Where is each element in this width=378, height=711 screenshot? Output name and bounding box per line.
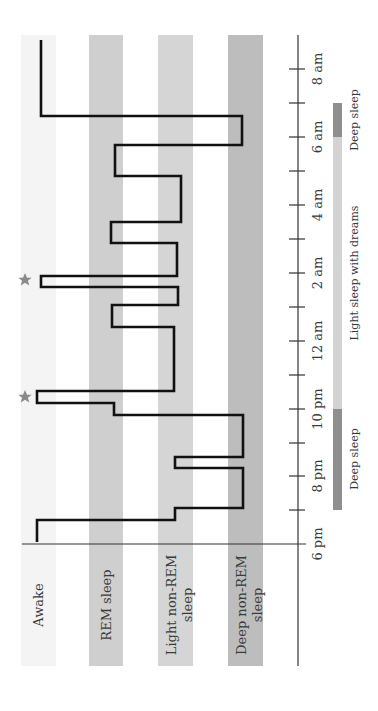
stage-label-rem: REM sleep bbox=[99, 569, 114, 640]
tick-label-6am: 6 am bbox=[310, 121, 325, 153]
tick-label-8pm: 8 pm bbox=[310, 459, 325, 492]
tick-label-12am: 12 am bbox=[310, 321, 325, 362]
tick-label-10pm: 10 pm bbox=[310, 388, 325, 429]
tick-label-4am: 4 am bbox=[310, 189, 325, 221]
tick-label-2am: 2 am bbox=[310, 257, 325, 289]
band-awake bbox=[21, 35, 56, 666]
stage-label-light-2: sleep bbox=[180, 588, 195, 623]
sleep-stage-line bbox=[37, 40, 243, 542]
legend-label-light: Light sleep with dreams bbox=[348, 205, 361, 340]
legend-deep-sleep-early bbox=[333, 409, 342, 510]
tick-label-8am: 8 am bbox=[310, 53, 325, 85]
stage-label-awake: Awake bbox=[31, 583, 46, 628]
sleep-hypnogram-chart: 6 pm 8 pm 10 pm 12 am 2 am 4 am 6 am 8 a… bbox=[0, 0, 378, 711]
legend-label-deep-early: Deep sleep bbox=[348, 428, 361, 490]
tick-label-6pm: 6 pm bbox=[310, 527, 325, 560]
axis-ticks bbox=[289, 69, 305, 510]
stage-label-deep-1: Deep non-REM bbox=[234, 555, 249, 655]
stage-label-light-1: Light non-REM bbox=[164, 555, 179, 655]
legend-label-deep-late: Deep sleep bbox=[348, 89, 361, 151]
stage-label-deep-2: sleep bbox=[250, 588, 265, 623]
legend-light-sleep bbox=[333, 137, 342, 409]
legend-deep-sleep-late bbox=[333, 103, 342, 137]
